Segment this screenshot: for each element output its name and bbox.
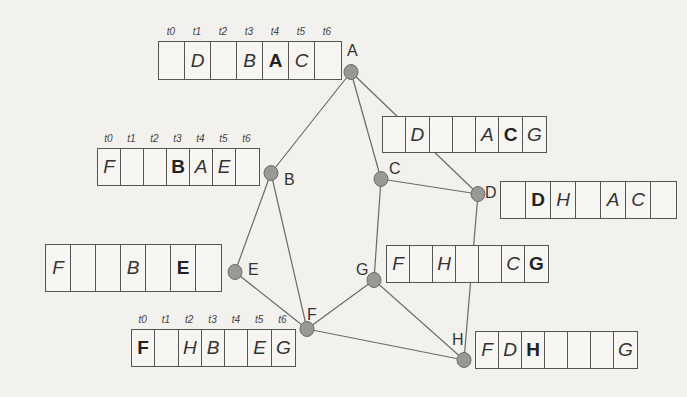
node-label-a: A [347,42,358,60]
node-label-c: C [389,160,401,178]
node-label-g: G [356,261,368,279]
node-label-e: E [248,261,259,279]
node-c [374,172,388,187]
node-b [264,166,278,181]
node-a [344,65,358,80]
graph-diagram: t0t1t2t3t4t5t6DBACt0t1t2t3t4t5t6FBAEDACG… [0,0,687,397]
node-g [367,273,381,288]
node-label-h: H [452,331,464,349]
nodes-layer [0,0,687,397]
node-label-f: F [307,306,317,324]
node-e [228,265,242,280]
node-d [471,187,485,202]
node-h [457,353,471,368]
node-label-d: D [485,184,497,202]
node-label-b: B [284,171,295,189]
